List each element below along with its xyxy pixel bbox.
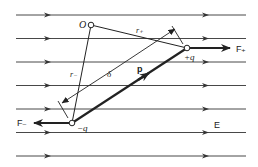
r-minus-label: r₋ <box>70 70 78 79</box>
origin-label: O <box>79 19 86 30</box>
dipole-diagram: O r₊ r₋ δ p +q −q F₊ F₋ E <box>0 0 258 167</box>
origin-point <box>88 22 94 28</box>
field-label: E <box>214 120 220 130</box>
delta-tick-minus <box>58 101 68 118</box>
delta-label: δ <box>107 69 112 79</box>
positive-charge-label: +q <box>184 52 195 62</box>
force-minus-label: F₋ <box>17 118 28 128</box>
dipole-moment-arrowhead <box>138 73 149 80</box>
delta-tick-plus <box>172 26 183 44</box>
r-plus-label: r₊ <box>136 26 144 35</box>
force-plus-label: F₊ <box>236 44 247 54</box>
dipole-moment-label: p <box>137 64 143 74</box>
negative-charge-label: −q <box>77 123 88 133</box>
negative-charge <box>69 120 75 126</box>
positive-charge <box>184 45 190 51</box>
